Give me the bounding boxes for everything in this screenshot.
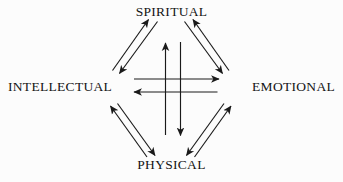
edge-physical-to-intellectual	[111, 106, 148, 157]
wellness-diagram: SPIRITUAL INTELLECTUAL EMOTIONAL PHYSICA…	[0, 0, 343, 182]
edge-physical-to-emotional	[195, 106, 232, 157]
edge-emotional-to-physical	[187, 104, 225, 156]
edge-emotional-to-spiritual	[193, 20, 229, 71]
node-label-emotional: EMOTIONAL	[252, 80, 335, 94]
node-label-intellectual: INTELLECTUAL	[8, 80, 112, 94]
edge-intellectual-to-physical	[118, 104, 156, 156]
edge-spiritual-to-emotional	[185, 22, 223, 74]
node-label-physical: PHYSICAL	[0, 158, 343, 172]
edge-intellectual-to-spiritual	[113, 20, 149, 71]
edge-spiritual-to-intellectual	[120, 22, 158, 74]
node-label-spiritual: SPIRITUAL	[0, 5, 343, 19]
